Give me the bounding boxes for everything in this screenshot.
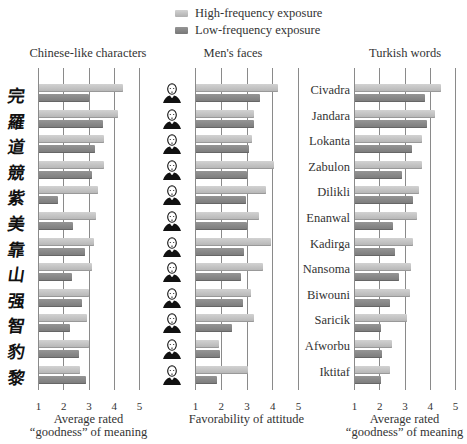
panel-title: Turkish words (369, 46, 441, 61)
bar-high-8 (355, 263, 411, 271)
bar-low-4 (355, 171, 402, 179)
row-label: Dilikli (317, 185, 350, 200)
bar-high-2 (355, 110, 435, 118)
row-label: Jandara (312, 109, 350, 124)
row-label: Saricik (315, 313, 350, 328)
x-axis-title: Average rated“goodness” of meaning (346, 413, 463, 439)
grid-line (455, 68, 456, 390)
bar-low-8 (355, 273, 399, 281)
bar-high-4 (355, 161, 422, 169)
bar-low-6 (355, 222, 393, 230)
x-tick-label: 5 (453, 400, 459, 412)
bar-high-7 (355, 238, 413, 246)
x-tick-label: 4 (428, 400, 434, 412)
bar-high-3 (355, 135, 422, 143)
row-label: Civadra (310, 83, 350, 98)
bar-low-11 (355, 350, 382, 358)
bar-low-5 (355, 196, 413, 204)
bar-high-10 (355, 314, 407, 322)
x-tick-label: 2 (377, 400, 383, 412)
row-label: Enanwal (306, 211, 350, 226)
panel-turkish-words: Turkish words12345CivadraJandaraLokantaZ… (0, 0, 467, 444)
bar-high-6 (355, 212, 417, 220)
x-tick-label: 3 (402, 400, 408, 412)
x-tick-label: 1 (352, 400, 358, 412)
bar-high-9 (355, 289, 410, 297)
bar-high-1 (355, 84, 441, 92)
bar-low-2 (355, 120, 427, 128)
x-axis-title-line2: “goodness” of meaning (346, 426, 463, 439)
row-label: Zabulon (308, 160, 350, 175)
row-label: Lokanta (309, 134, 350, 149)
bar-low-9 (355, 299, 390, 307)
bar-low-10 (355, 324, 381, 332)
row-label: Afworbu (305, 339, 350, 354)
bar-high-5 (355, 186, 419, 194)
row-label: Iktitaf (319, 365, 350, 380)
bar-high-12 (355, 366, 390, 374)
bar-low-1 (355, 94, 425, 102)
row-label: Kadirga (310, 237, 350, 252)
row-label: Nansoma (303, 262, 350, 277)
bar-low-7 (355, 248, 395, 256)
bar-low-3 (355, 145, 412, 153)
bar-low-12 (355, 376, 381, 384)
row-label: Biwouni (307, 288, 350, 303)
bar-high-11 (355, 340, 392, 348)
